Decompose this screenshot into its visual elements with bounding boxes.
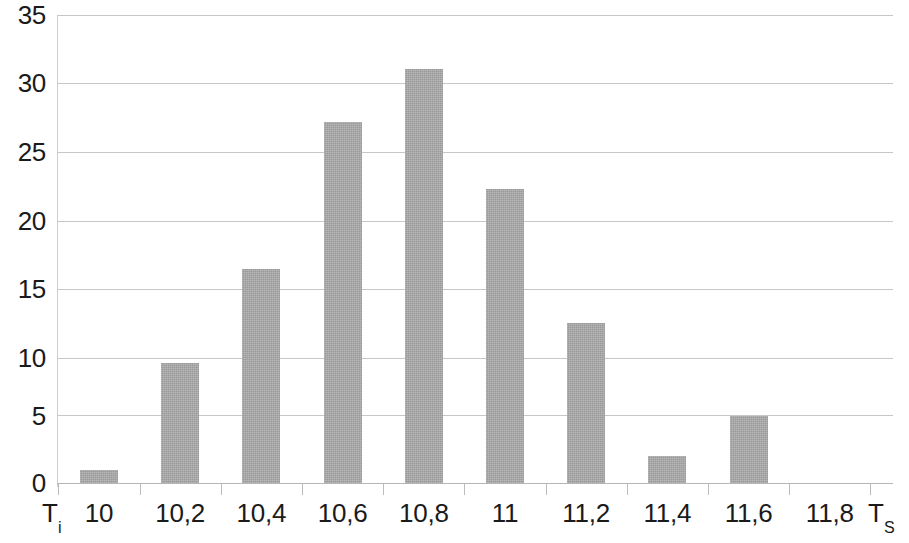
bar — [648, 456, 686, 483]
axis-start-symbol: Ti — [42, 500, 61, 530]
y-tick-label: 30 — [2, 70, 46, 96]
x-tick-label: 11,8 — [780, 500, 880, 526]
bar — [405, 69, 443, 484]
gridline-10 — [57, 358, 893, 359]
x-axis-line — [57, 483, 893, 484]
bar — [486, 189, 524, 483]
x-tick-mark — [140, 484, 141, 495]
x-tick-mark — [58, 484, 59, 495]
bar — [567, 323, 605, 483]
gridline-35 — [57, 15, 893, 16]
axis-start-symbol-base: T — [42, 498, 58, 528]
bar — [324, 122, 362, 483]
y-tick-label: 15 — [2, 276, 46, 302]
x-tick-mark — [708, 484, 709, 495]
x-tick-mark — [627, 484, 628, 495]
axis-end-symbol-base: T — [868, 498, 884, 528]
x-tick-mark — [870, 484, 871, 495]
axis-end-symbol: TS — [868, 500, 895, 530]
y-tick-label: 0 — [2, 470, 46, 496]
y-tick-label: 20 — [2, 208, 46, 234]
x-tick-mark — [221, 484, 222, 495]
bar — [161, 363, 199, 483]
y-axis-tick-labels: 35 30 25 20 15 10 5 0 — [0, 0, 46, 543]
axis-end-symbol-subscript: S — [884, 518, 895, 536]
gridline-15 — [57, 289, 893, 290]
x-tick-mark — [789, 484, 790, 495]
y-tick-label: 5 — [2, 403, 46, 429]
x-tick-mark — [464, 484, 465, 495]
gridline-25 — [57, 152, 893, 153]
y-tick-label: 10 — [2, 345, 46, 371]
bar — [242, 269, 280, 483]
bar — [730, 416, 768, 483]
y-tick-label: 25 — [2, 139, 46, 165]
bar — [80, 470, 118, 483]
gridline-20 — [57, 221, 893, 222]
x-tick-mark — [383, 484, 384, 495]
axis-start-symbol-subscript: i — [58, 518, 62, 536]
x-tick-mark — [302, 484, 303, 495]
plot-area — [57, 15, 893, 483]
y-tick-label: 35 — [2, 2, 46, 28]
bar-chart-figure: 35 30 25 20 15 10 5 0 1010,210,410,610,8… — [0, 0, 909, 543]
gridline-30 — [57, 83, 893, 84]
x-tick-mark — [546, 484, 547, 495]
